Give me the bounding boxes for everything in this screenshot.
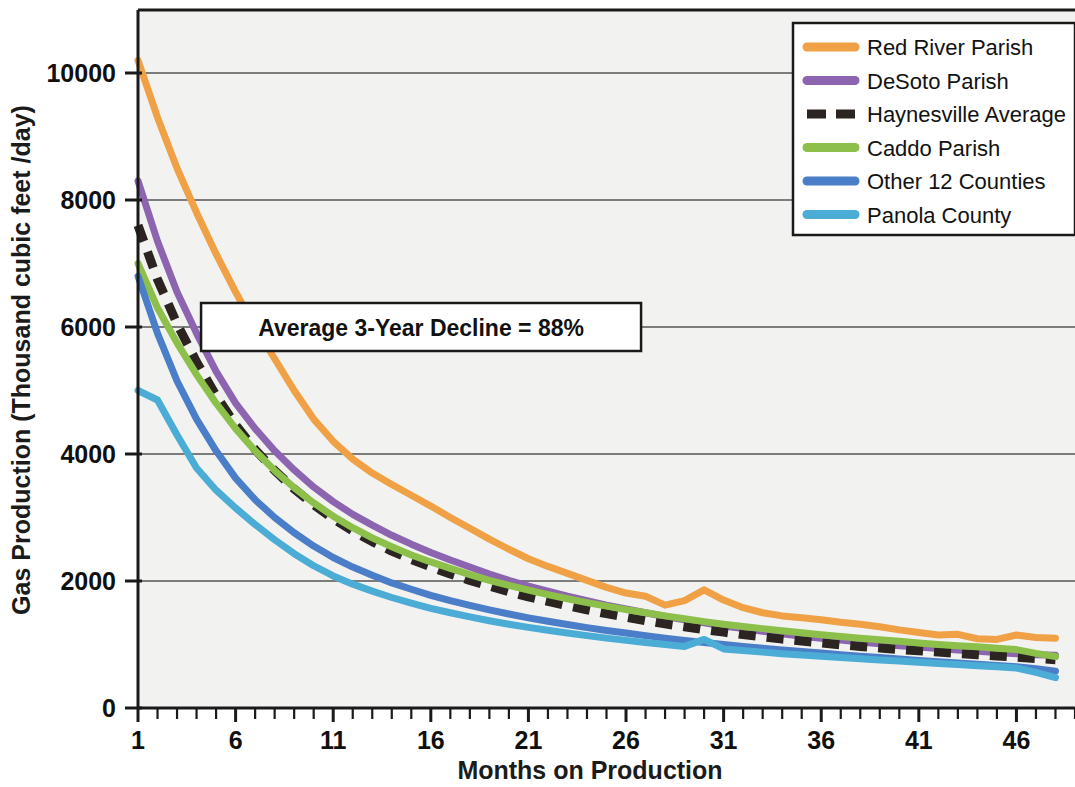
x-tick-label: 21 — [515, 726, 543, 754]
x-axis-tick-labels: 161116212631364146 — [131, 726, 1030, 754]
x-axis-title: Months on Production — [457, 756, 722, 784]
annotation-box: Average 3-Year Decline = 88% — [201, 303, 641, 351]
x-tick-label: 36 — [807, 726, 835, 754]
legend-label: Haynesville Average — [867, 102, 1066, 127]
legend-label: Panola County — [867, 203, 1011, 228]
y-axis-tick-labels: 0200040006000800010000 — [46, 59, 116, 722]
annotation-text: Average 3-Year Decline = 88% — [258, 315, 584, 341]
legend-label: DeSoto Parish — [867, 69, 1009, 94]
y-axis-title: Gas Production (Thousand cubic feet /day… — [7, 105, 35, 615]
x-tick-label: 46 — [1003, 726, 1031, 754]
legend-label: Caddo Parish — [867, 136, 1000, 161]
x-axis-ticks — [138, 708, 1075, 722]
y-tick-label: 4000 — [60, 440, 116, 468]
gas-production-decline-chart: 161116212631364146 020004000600080001000… — [0, 0, 1075, 787]
y-tick-label: 8000 — [60, 186, 116, 214]
x-tick-label: 26 — [612, 726, 640, 754]
chart-canvas: 161116212631364146 020004000600080001000… — [0, 0, 1075, 787]
x-tick-label: 41 — [905, 726, 933, 754]
y-tick-label: 2000 — [60, 567, 116, 595]
y-tick-label: 0 — [102, 694, 116, 722]
x-tick-label: 16 — [417, 726, 445, 754]
legend-label: Red River Parish — [867, 35, 1033, 60]
x-tick-label: 1 — [131, 726, 145, 754]
x-tick-label: 31 — [710, 726, 738, 754]
x-tick-label: 11 — [320, 726, 347, 754]
x-tick-label: 6 — [229, 726, 243, 754]
y-tick-label: 6000 — [60, 313, 116, 341]
legend-label: Other 12 Counties — [867, 169, 1046, 194]
legend: Red River ParishDeSoto ParishHaynesville… — [793, 23, 1075, 235]
y-tick-label: 10000 — [46, 59, 116, 87]
